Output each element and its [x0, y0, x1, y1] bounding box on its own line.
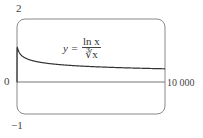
- formula-numerator: ln x: [82, 36, 101, 48]
- x-tick-right: 10 000: [167, 77, 195, 88]
- function-label: y = ln x ∛x: [63, 36, 101, 60]
- y-tick-top: 2: [16, 3, 22, 14]
- formula-lhs: y =: [63, 42, 78, 54]
- y-tick-zero: 0: [4, 76, 10, 87]
- y-tick-bottom: −1: [11, 120, 23, 131]
- formula-denominator: ∛x: [85, 48, 98, 60]
- formula-fraction: ln x ∛x: [82, 36, 101, 60]
- plot-area: [0, 0, 203, 138]
